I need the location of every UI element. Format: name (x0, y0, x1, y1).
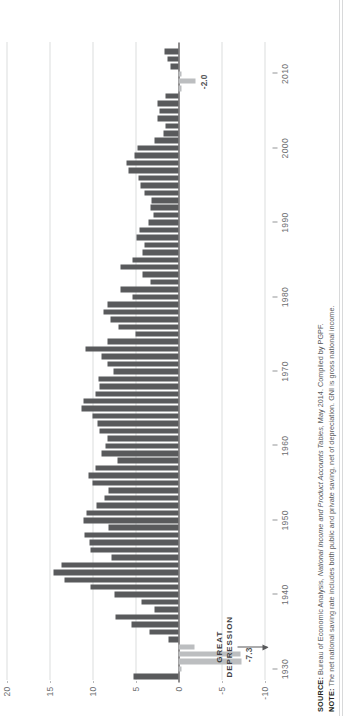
gridline (6, 42, 7, 682)
bar (142, 271, 178, 277)
bar (92, 413, 178, 419)
x-tick (272, 519, 277, 520)
x-tick (272, 147, 277, 148)
footer-notes: SOURCE: Bureau of Economic Analysis, Nat… (316, 22, 337, 712)
bar (136, 234, 178, 240)
bar (97, 420, 178, 426)
bar (83, 517, 178, 523)
x-axis-years: 193019401950196019701980199020002010 (272, 42, 306, 682)
bar (149, 629, 178, 635)
y-tick-label: 15 (44, 686, 54, 712)
bar (61, 562, 178, 568)
x-tick-label: 1960 (279, 435, 289, 456)
bar (81, 405, 178, 411)
bar (132, 257, 178, 263)
bar (159, 108, 178, 114)
bar (163, 130, 178, 136)
bar (157, 115, 179, 121)
bar (120, 264, 178, 270)
bar (178, 644, 194, 650)
source-line: SOURCE: Bureau of Economic Analysis, Nat… (316, 22, 327, 712)
x-tick-label: 1940 (279, 584, 289, 605)
gridline (221, 42, 222, 682)
source-text-post: , May 2014. Compiled by PGPF. (316, 323, 325, 427)
data-label: -2.0 (198, 74, 208, 89)
x-tick-label: 1990 (279, 212, 289, 233)
source-label: SOURCE: (316, 677, 325, 712)
bar (83, 398, 178, 404)
bar (134, 152, 178, 158)
y-tick-label: 5 (130, 686, 140, 712)
edge-rule-outer (342, 0, 343, 716)
edge-rule-inner (339, 0, 340, 716)
bar (105, 443, 178, 449)
y-tick-label: 20 (1, 686, 11, 712)
bar (96, 502, 178, 508)
bar (118, 324, 178, 330)
bar (126, 160, 178, 166)
bar (85, 346, 178, 352)
bar (98, 376, 178, 382)
bar (131, 621, 178, 627)
bar (53, 569, 178, 575)
great-depression-annotation: GREAT DEPRESSION (214, 602, 267, 690)
x-tick (272, 668, 277, 669)
bar (95, 391, 178, 397)
bar (178, 666, 181, 672)
chart-figure: 20151050-5-10-7.3-2.0 193019401950196019… (0, 0, 345, 716)
note-line: NOTE: The net national saving rate inclu… (327, 22, 338, 712)
bar (115, 614, 178, 620)
bar (99, 383, 178, 389)
bar (153, 212, 178, 218)
bar (104, 495, 178, 501)
bar (165, 123, 178, 129)
bar (140, 182, 178, 188)
note-text: The net national saving rate includes bo… (327, 306, 336, 689)
bar (64, 577, 178, 583)
y-tick-label: 0 (173, 686, 183, 712)
bar (117, 458, 178, 464)
x-tick-label: 2010 (279, 63, 289, 84)
bar (114, 591, 179, 597)
bar (167, 56, 178, 62)
bar (113, 368, 178, 374)
note-label: NOTE: (327, 688, 336, 712)
gridline (49, 42, 50, 682)
bar (164, 48, 178, 54)
bar (95, 465, 178, 471)
bar (133, 673, 178, 679)
x-tick-label: 2000 (279, 137, 289, 158)
bar (142, 249, 178, 255)
x-tick-label: 1930 (279, 658, 289, 679)
bar (178, 78, 195, 84)
bar (150, 279, 178, 285)
annotation-line-1: GREAT (214, 630, 223, 662)
bar (168, 636, 178, 642)
bar (107, 338, 178, 344)
x-tick-label: 1980 (279, 286, 289, 307)
bar (111, 554, 178, 560)
bar (144, 242, 178, 248)
source-text-pre: Bureau of Economic Analysis, (316, 576, 325, 677)
x-tick-label: 1970 (279, 361, 289, 382)
bar (141, 599, 178, 605)
bar (101, 353, 178, 359)
bar (92, 480, 178, 486)
bar (157, 100, 179, 106)
bar (148, 219, 178, 225)
bar (101, 450, 178, 456)
annotation-arrow-icon (237, 646, 267, 647)
bar (178, 71, 181, 77)
plot-area: 20151050-5-10-7.3-2.0 (6, 42, 264, 682)
x-tick (272, 72, 277, 73)
x-tick (272, 221, 277, 222)
bar (151, 197, 178, 203)
bar (107, 435, 178, 441)
bar (99, 428, 178, 434)
annotation-line-2: DEPRESSION (224, 616, 233, 677)
bar (165, 93, 178, 99)
y-tick-label: 10 (87, 686, 97, 712)
bar (150, 204, 178, 210)
bar (135, 331, 178, 337)
x-tick (272, 296, 277, 297)
